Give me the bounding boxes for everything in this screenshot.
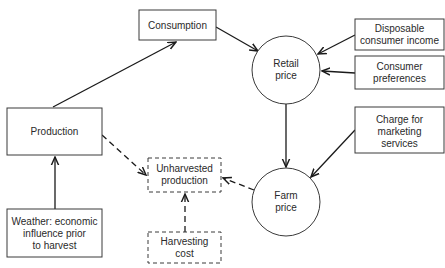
node-weather-label-3: to harvest xyxy=(33,240,77,251)
node-unharvested-production: Unharvested production xyxy=(148,158,221,192)
node-consumer-preferences-label-2: preferences xyxy=(373,73,426,84)
node-retail-price-label-2: price xyxy=(275,70,297,81)
edge-preferences-to-retail-price xyxy=(322,71,355,73)
edge-consumption-to-retail-price xyxy=(216,27,258,51)
node-weather-label-2: influence prior xyxy=(23,228,86,239)
node-marketing-charge-label-2: marketing xyxy=(378,126,422,137)
node-retail-price: Retail price xyxy=(252,36,320,104)
node-farm-price-label-1: Farm xyxy=(274,190,297,201)
node-retail-price-label-1: Retail xyxy=(273,58,299,69)
node-disposable-income-label-2: consumer income xyxy=(360,35,439,46)
node-disposable-income: Disposable consumer income xyxy=(355,19,444,50)
node-marketing-charge-label-1: Charge for xyxy=(376,114,424,125)
edge-disposable-income-to-retail-price xyxy=(318,35,355,54)
price-flow-diagram: Consumption Retail price Disposable cons… xyxy=(0,0,445,268)
node-farm-price-label-2: price xyxy=(275,202,297,213)
node-farm-price: Farm price xyxy=(252,168,320,236)
node-weather: Weather: economic influence prior to har… xyxy=(7,209,102,257)
node-marketing-charge: Charge for marketing services xyxy=(355,107,444,153)
node-harvesting-cost-label-2: cost xyxy=(175,248,194,259)
edge-production-to-unharvested xyxy=(102,135,146,175)
node-consumer-preferences: Consumer preferences xyxy=(355,56,444,89)
node-harvesting-cost-label-1: Harvesting xyxy=(161,236,209,247)
edge-marketing-charge-to-farm-price xyxy=(311,130,355,177)
node-marketing-charge-label-3: services xyxy=(381,138,418,149)
node-unharvested-production-label-2: production xyxy=(161,175,208,186)
node-disposable-income-label-1: Disposable xyxy=(375,23,425,34)
node-production: Production xyxy=(7,108,102,155)
edge-production-to-consumption xyxy=(53,42,176,107)
node-consumption-label: Consumption xyxy=(148,20,207,31)
node-consumer-preferences-label-1: Consumer xyxy=(376,61,423,72)
node-production-label: Production xyxy=(31,126,79,137)
edge-farm-price-to-unharvested xyxy=(223,178,254,190)
node-harvesting-cost: Harvesting cost xyxy=(148,232,221,263)
node-consumption: Consumption xyxy=(139,10,216,40)
node-unharvested-production-label-1: Unharvested xyxy=(156,163,213,174)
node-weather-label-1: Weather: economic xyxy=(12,216,98,227)
